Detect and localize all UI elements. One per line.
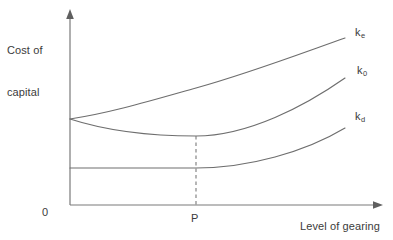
- x-axis-label: Level of gearing: [300, 219, 380, 233]
- curve-label-kd-text: k: [355, 110, 361, 122]
- y-axis-label-line2: capital: [7, 85, 43, 99]
- optimal-point-label: P: [191, 211, 198, 225]
- curve-k0: [70, 78, 345, 136]
- curve-label-ke-text: k: [355, 26, 361, 38]
- x-axis-arrowhead: [373, 201, 383, 209]
- capital-structure-chart: Cost of capital Level of gearing 0 P ke …: [0, 0, 393, 240]
- curve-ke: [70, 38, 345, 119]
- curve-label-kd: kd: [355, 110, 365, 122]
- curve-kd: [70, 128, 345, 168]
- y-axis-label-line1: Cost of: [7, 43, 43, 57]
- curve-label-kd-subscript: d: [361, 115, 365, 124]
- curve-label-ke: ke: [355, 26, 365, 38]
- curve-label-ke-subscript: e: [361, 31, 365, 40]
- y-axis-arrowhead: [66, 9, 74, 19]
- origin-label: 0: [42, 205, 48, 219]
- curve-label-k0-text: k: [357, 64, 363, 76]
- chart-plot-area: [0, 0, 393, 240]
- curve-label-k0-subscript: 0: [363, 69, 367, 78]
- curve-label-k0: k0: [357, 64, 367, 76]
- y-axis-label: Cost of capital: [7, 15, 43, 127]
